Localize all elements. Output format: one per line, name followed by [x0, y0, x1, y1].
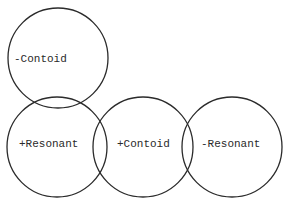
circle-label: -Resonant — [201, 138, 260, 150]
feature-circle-diagram: -Contoid +Resonant +Contoid -Resonant — [0, 0, 288, 202]
circle-label: +Resonant — [19, 138, 78, 150]
circle-plus-resonant: +Resonant — [7, 97, 107, 197]
circle-label: -Contoid — [14, 53, 67, 65]
circle-minus-resonant: -Resonant — [182, 97, 282, 197]
circle-minus-contoid: -Contoid — [8, 8, 108, 108]
circle-label: +Contoid — [117, 138, 170, 150]
circle-plus-contoid: +Contoid — [93, 97, 193, 197]
